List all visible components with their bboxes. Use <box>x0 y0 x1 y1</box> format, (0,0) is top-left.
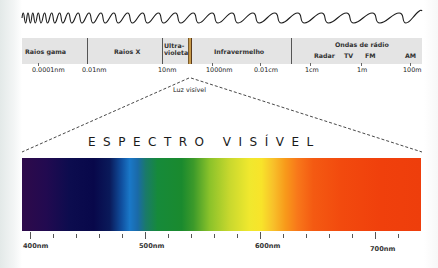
spectrum-tick <box>306 234 307 238</box>
spectrum-tick-major <box>375 232 376 239</box>
spectrum-label-500: 500nm <box>139 242 164 250</box>
visible-spectrum-title: ESPECTRO VISÍVEL <box>88 135 321 149</box>
spectrum-tick <box>283 234 284 238</box>
spectrum-tick <box>352 234 353 238</box>
spectrum-tick <box>122 234 123 238</box>
spectrum-tick <box>191 234 192 238</box>
spectrum-tick <box>214 234 215 238</box>
spectrum-label-600: 600nm <box>255 242 280 250</box>
spectrum-tick <box>99 234 100 238</box>
spectrum-tick-major <box>145 232 146 239</box>
spectrum-tick <box>76 234 77 238</box>
spectrum-tick <box>398 234 399 238</box>
spectrum-tick <box>53 234 54 238</box>
spectrum-label-700: 700nm <box>370 245 395 253</box>
spectrum-tick-major <box>260 232 261 239</box>
visible-spectrum-gradient <box>22 158 421 231</box>
spectrum-tick <box>237 234 238 238</box>
spectrum-tick <box>329 234 330 238</box>
spectrum-label-400: 400nm <box>23 242 48 250</box>
spectrum-tick-major <box>30 232 31 239</box>
spectrum-tick <box>168 234 169 238</box>
